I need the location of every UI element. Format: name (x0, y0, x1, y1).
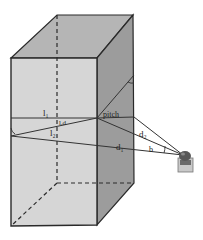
label-d1: d₁ (116, 142, 124, 152)
label-d2: d₂ (139, 129, 147, 139)
sensor-icon (178, 151, 193, 172)
diagram-canvas: l₁ lᵣd l₂ pitch d₂ d₁ b (0, 0, 203, 240)
label-pitch: pitch (103, 110, 119, 119)
front-face (11, 58, 97, 226)
label-lrd: lᵣd (59, 119, 67, 127)
label-l2: l₂ (50, 128, 56, 138)
label-b: b (149, 145, 153, 154)
label-l1: l₁ (43, 108, 49, 118)
box-diagram: l₁ lᵣd l₂ pitch d₂ d₁ b (0, 0, 203, 240)
